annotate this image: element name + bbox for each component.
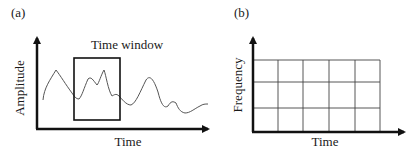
y-axis-label-amplitude: Amplitude: [12, 60, 27, 116]
panel-b-label: (b): [234, 5, 249, 20]
signal-waveform: [43, 70, 208, 113]
time-frequency-grid: [253, 60, 380, 132]
time-window-box: [74, 58, 120, 120]
panel-a-label: (a): [11, 5, 25, 20]
x-axis-label-time-a: Time: [115, 134, 142, 149]
panel-a: (a) Time window Amplitude Time: [11, 5, 208, 149]
panel-b: (b) Frequency Time: [230, 5, 404, 149]
time-window-title: Time window: [91, 37, 164, 52]
x-axis-label-time-b: Time: [312, 134, 339, 149]
diagram-canvas: (a) Time window Amplitude Time (b) Frequ…: [0, 0, 416, 153]
y-axis-label-frequency: Frequency: [230, 57, 245, 112]
